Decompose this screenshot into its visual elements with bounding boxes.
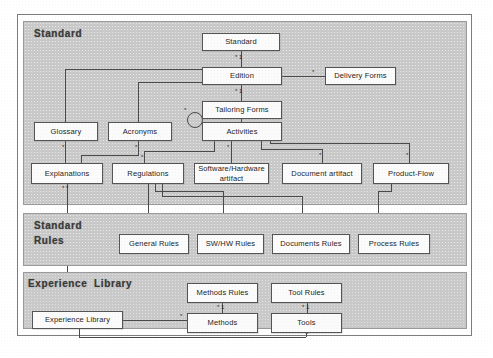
class-activities-label: Activities <box>226 127 257 136</box>
class-activities[interactable]: Activities <box>202 122 282 141</box>
class-sw-hw-rules[interactable]: SW/HW Rules <box>197 234 264 254</box>
class-methods[interactable]: Methods <box>187 313 258 333</box>
connector-regulations-swhw-h <box>155 191 223 192</box>
class-edition-label: Edition <box>230 71 254 80</box>
connector-explib-methods <box>123 320 188 321</box>
connector-activities-doc-h <box>261 149 322 150</box>
class-sw-hw-artifact[interactable]: Software/Hardware artifact <box>194 163 269 184</box>
class-product-flow-label: Product-Flow <box>388 169 434 178</box>
class-explanations-label: Explanations <box>45 169 90 178</box>
class-glossary[interactable]: Glossary <box>34 122 98 141</box>
package-standard-rules-title: Standard Rules <box>34 219 82 248</box>
connector-acronyms-down <box>138 141 139 155</box>
class-document-artifact-label: Document artifact <box>291 169 352 178</box>
connector-activities-doc-v1 <box>261 141 262 149</box>
multiplicity-activities-regulations: * <box>141 154 143 160</box>
diagram-frame: Standard * 1 * * 1 * 1 * * * <box>17 14 472 336</box>
class-experience-library[interactable]: Experience Library <box>32 311 123 329</box>
class-methods-rules[interactable]: Methods Rules <box>187 283 258 303</box>
connector-edition-delivery <box>282 76 325 77</box>
connector-regulations-swhw-v1 <box>155 184 156 191</box>
multiplicity-edition-tailoring: * 1 <box>235 88 242 94</box>
class-explanations[interactable]: Explanations <box>31 163 103 184</box>
multiplicity-explib-methods: * <box>180 313 182 319</box>
connector-activities-doc-v2 <box>322 149 323 163</box>
class-documents-rules-label: Documents Rules <box>280 239 341 248</box>
connector-edition-glossary-v <box>65 69 66 122</box>
class-tools[interactable]: Tools <box>271 313 342 333</box>
class-regulations-label: Regulations <box>127 169 168 178</box>
class-methods-label: Methods <box>208 318 238 327</box>
connector-activities-self-loop <box>187 112 203 128</box>
class-delivery-forms-label: Delivery Forms <box>334 71 387 80</box>
class-product-flow[interactable]: Product-Flow <box>373 163 449 184</box>
class-tools-label: Tools <box>297 318 315 327</box>
connector-explib-tools-h <box>79 337 306 338</box>
multiplicity-activities-doc: * <box>319 152 321 158</box>
package-experience-library-title: Experience Library <box>28 278 132 289</box>
class-process-rules-label: Process Rules <box>369 239 419 248</box>
connector-activities-regulations-v1 <box>214 141 215 151</box>
class-standard[interactable]: Standard <box>202 33 280 51</box>
class-documents-rules[interactable]: Documents Rules <box>272 234 350 254</box>
class-process-rules[interactable]: Process Rules <box>358 234 430 254</box>
connector-glossary-explanations <box>65 141 66 163</box>
multiplicity-explanations-down: * * <box>62 185 68 191</box>
class-document-artifact[interactable]: Document artifact <box>282 163 362 184</box>
multiplicity-tool-rules-tools: * 1 <box>302 304 309 310</box>
class-tailoring-forms[interactable]: Tailoring Forms <box>202 101 282 119</box>
class-sw-hw-artifact-label: Software/Hardware artifact <box>198 164 265 183</box>
class-sw-hw-rules-label: SW/HW Rules <box>206 239 256 248</box>
class-acronyms[interactable]: Acronyms <box>108 122 172 141</box>
package-standard-title: Standard <box>34 28 82 39</box>
multiplicity-activities-product: * <box>406 152 408 158</box>
connector-acronyms-explanations-h <box>81 155 139 156</box>
class-edition[interactable]: Edition <box>202 67 282 85</box>
connector-product-process-h <box>378 191 392 192</box>
connector-activities-swhw <box>231 141 232 163</box>
class-tool-rules-label: Tool Rules <box>288 288 325 297</box>
class-tool-rules[interactable]: Tool Rules <box>271 283 342 303</box>
connector-explib-tools-v1 <box>79 328 80 337</box>
multiplicity-activities-self: * <box>184 107 186 113</box>
multiplicity-acronyms: * <box>135 144 137 150</box>
class-general-rules-label: General Rules <box>129 239 179 248</box>
multiplicity-standard-edition: * 1 <box>235 54 242 60</box>
class-general-rules[interactable]: General Rules <box>119 234 189 254</box>
multiplicity-activities-swhw: * <box>227 144 229 150</box>
connector-activities-regulations-v2 <box>144 151 145 163</box>
class-standard-label: Standard <box>225 37 257 46</box>
connector-activities-regulations-h <box>144 151 215 152</box>
connector-activities-product-v <box>409 143 410 163</box>
class-acronyms-label: Acronyms <box>123 127 158 136</box>
connector-edition-glossary-h <box>65 69 214 70</box>
class-experience-library-label: Experience Library <box>45 315 110 324</box>
class-regulations[interactable]: Regulations <box>112 163 184 184</box>
multiplicity-methods-rules-methods: * 1 <box>217 304 224 310</box>
diagram-canvas: Standard * 1 * * 1 * 1 * * * <box>0 0 493 358</box>
connector-activities-product-h <box>270 143 409 144</box>
class-methods-rules-label: Methods Rules <box>197 288 249 297</box>
multiplicity-glossary-explanations: * <box>62 144 64 150</box>
class-tailoring-forms-label: Tailoring Forms <box>215 105 269 114</box>
class-glossary-label: Glossary <box>51 127 82 136</box>
multiplicity-edition-delivery: * <box>312 69 314 75</box>
class-delivery-forms[interactable]: Delivery Forms <box>325 67 396 85</box>
connector-edition-acronyms-v <box>138 82 139 122</box>
connector-product-process-v1 <box>391 184 392 191</box>
connector-regulations-docs-h <box>162 196 302 197</box>
connector-acronyms-explanations-v <box>81 155 82 163</box>
connector-regulations-docs-v1 <box>162 184 163 196</box>
